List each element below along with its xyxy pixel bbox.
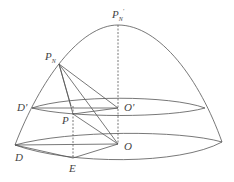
dome-curve <box>15 25 222 145</box>
label-e: E <box>69 163 76 174</box>
label-pn-prime: PN' <box>112 8 124 22</box>
lower-ellipse-back <box>15 133 222 145</box>
diagram-canvas: PN' PN D' O' P D O E <box>0 0 234 182</box>
upper-ellipse-front <box>32 108 205 116</box>
geometry-figure <box>0 0 234 182</box>
label-d: D <box>15 152 23 163</box>
upper-ellipse-back <box>32 98 205 108</box>
label-o: O <box>124 141 132 152</box>
label-d-prime: D' <box>17 102 27 113</box>
label-o-prime: O' <box>124 102 134 113</box>
label-p: P <box>62 115 69 126</box>
label-pn: PN <box>45 51 56 64</box>
